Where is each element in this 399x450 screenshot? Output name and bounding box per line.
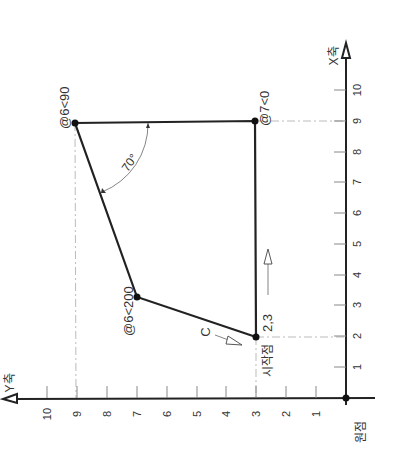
- x-tick-7: 7: [351, 179, 363, 185]
- arc-arrow-icon-top: [146, 123, 150, 128]
- x-axis: 1 2 3 4 5 6 7 8 9 10 X축: [327, 43, 363, 405]
- x-tick-3: 3: [351, 302, 363, 308]
- guide-y9: [75, 123, 76, 398]
- y-tick-3: 3: [250, 411, 262, 417]
- label-start: 2,3: [260, 314, 275, 332]
- x-axis-arrow-icon: [342, 43, 350, 58]
- x-tick-1: 1: [351, 364, 363, 370]
- close-arrow-icon: [226, 336, 242, 345]
- label-p3: @6<90: [57, 87, 72, 129]
- y-tick-2: 2: [280, 411, 292, 417]
- x-tick-10: 10: [351, 84, 363, 96]
- vertex-p3: [72, 120, 79, 127]
- direction-arrow-icon: [264, 249, 272, 264]
- angle-label: 70°: [119, 151, 141, 174]
- label-p2: @6<200: [121, 286, 136, 336]
- label-start-sub: 시작점: [261, 344, 275, 377]
- label-p4: @7<0: [257, 91, 272, 126]
- x-tick-5: 5: [351, 241, 363, 247]
- vertex-start: [253, 334, 260, 341]
- x-tick-2: 2: [351, 333, 363, 339]
- y-tick-5: 5: [191, 411, 203, 417]
- y-tick-4: 4: [220, 411, 232, 417]
- y-axis: 1 2 3 4 5 6 7 8 9 10 Y축: [3, 373, 375, 420]
- close-label: C: [198, 327, 213, 336]
- y-axis-label: Y축: [3, 373, 17, 392]
- x-tick-9: 9: [351, 118, 363, 124]
- direction-arrow: [264, 249, 272, 295]
- x-axis-label: X축: [327, 46, 341, 65]
- y-tick-10: 10: [41, 408, 53, 420]
- y-tick-6: 6: [161, 411, 173, 417]
- y-tick-9: 9: [71, 411, 83, 417]
- y-tick-8: 8: [101, 411, 113, 417]
- x-tick-8: 8: [351, 149, 363, 155]
- polar-coordinate-diagram: 1 2 3 4 5 6 7 8 9 10 X축 1: [0, 0, 399, 450]
- guide-lines: [75, 121, 346, 398]
- x-tick-4: 4: [351, 272, 363, 278]
- y-tick-7: 7: [131, 411, 143, 417]
- polygon-shape: [75, 121, 256, 337]
- origin-label: 원점: [354, 421, 368, 443]
- x-tick-6: 6: [351, 210, 363, 216]
- y-tick-1: 1: [310, 411, 322, 417]
- angle-arc: 70°: [101, 123, 150, 193]
- y-axis-arrow-icon: [3, 394, 17, 403]
- origin-dot: [343, 395, 350, 402]
